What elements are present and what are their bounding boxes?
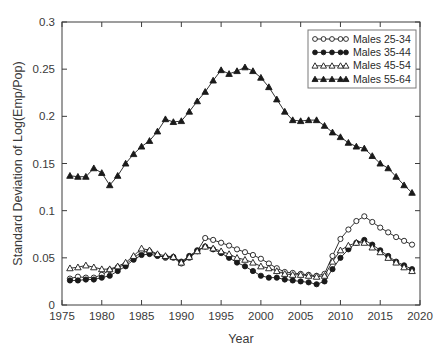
data-point-marker (242, 264, 247, 269)
data-point-marker (91, 277, 96, 282)
data-point-marker (345, 139, 352, 145)
data-point-marker (354, 218, 359, 223)
data-point-marker (298, 279, 303, 284)
data-point-marker (321, 50, 326, 55)
data-point-marker (162, 116, 169, 122)
legend-label: Males 35-44 (353, 46, 411, 58)
y-axis-title: Standard Deviation of Log(Emp/Pop) (11, 61, 25, 265)
data-point-marker (344, 37, 349, 42)
data-point-marker (226, 243, 231, 248)
data-point-marker (234, 247, 239, 252)
data-point-marker (322, 279, 327, 284)
data-point-marker (203, 235, 208, 240)
x-tick-label: 2000 (248, 310, 274, 322)
y-tick-label: 0.25 (33, 63, 55, 75)
x-tick-label: 2010 (328, 310, 354, 322)
data-point-marker (75, 278, 80, 283)
data-point-marker (330, 37, 335, 42)
data-point-marker (266, 275, 271, 280)
x-tick-label: 2015 (367, 310, 393, 322)
data-point-marker (282, 277, 287, 282)
data-point-marker (321, 37, 326, 42)
data-point-marker (337, 134, 344, 140)
data-point-marker (385, 165, 392, 171)
y-tick-label: 0.15 (33, 158, 55, 170)
data-point-marker (409, 242, 414, 247)
data-point-marker (362, 214, 367, 219)
x-tick-label: 1985 (129, 310, 155, 322)
data-point-marker (330, 50, 335, 55)
data-point-marker (83, 277, 88, 282)
series-line (70, 243, 412, 277)
data-point-marker (234, 255, 241, 261)
data-point-marker (338, 236, 343, 241)
x-tick-label: 2005 (288, 310, 314, 322)
data-point-marker (107, 273, 112, 278)
data-point-marker (218, 67, 225, 73)
data-point-marker (211, 237, 216, 242)
y-tick-label: 0.1 (39, 205, 55, 217)
data-point-marker (219, 240, 224, 245)
legend-label: Males 55-64 (353, 73, 411, 85)
data-point-marker (282, 108, 289, 114)
data-point-marker (370, 219, 375, 224)
data-point-marker (138, 143, 145, 149)
data-point-marker (344, 50, 349, 55)
data-point-marker (378, 225, 383, 230)
data-point-marker (274, 96, 281, 102)
data-point-marker (386, 230, 391, 235)
legend-label: Males 45-54 (353, 59, 411, 71)
data-point-marker (306, 280, 311, 285)
data-series-group (67, 64, 416, 287)
data-point-marker (138, 245, 145, 251)
line-chart: 1975198019851990199520002005201020152020… (0, 0, 448, 355)
data-point-marker (242, 250, 247, 255)
series-line (70, 240, 412, 284)
data-point-marker (250, 68, 256, 74)
data-point-marker (330, 267, 335, 272)
y-tick-label: 0 (49, 299, 55, 311)
data-point-marker (67, 278, 72, 283)
data-point-marker (394, 234, 399, 239)
legend-label: Males 25-34 (353, 33, 411, 45)
data-point-marker (242, 64, 249, 70)
data-point-marker (313, 37, 318, 42)
y-tick-label: 0.3 (39, 16, 55, 28)
data-point-marker (234, 68, 241, 74)
data-point-marker (338, 37, 343, 42)
chart-legend[interactable]: Males 25-34Males 35-44Males 45-54Males 5… (308, 30, 416, 88)
data-point-marker (353, 143, 360, 149)
x-tick-label: 1975 (49, 310, 75, 322)
data-point-marker (321, 123, 328, 129)
data-point-marker (202, 89, 209, 95)
x-tick-label: 1995 (208, 310, 234, 322)
chart-figure: 1975198019851990199520002005201020152020… (0, 0, 448, 355)
data-point-marker (83, 262, 90, 268)
data-point-marker (250, 268, 255, 273)
data-point-marker (346, 227, 351, 232)
data-point-marker (99, 275, 104, 280)
data-point-marker (250, 252, 255, 257)
data-point-marker (313, 50, 318, 55)
data-point-marker (401, 238, 406, 243)
y-tick-label: 0.2 (39, 110, 55, 122)
x-tick-label: 2020 (407, 310, 433, 322)
data-point-marker (274, 275, 279, 280)
x-tick-label: 1980 (89, 310, 115, 322)
x-axis-title: Year (228, 332, 253, 346)
data-point-marker (114, 173, 121, 179)
data-point-marker (338, 255, 343, 260)
data-point-marker (337, 247, 344, 253)
x-tick-label: 1990 (169, 310, 195, 322)
data-point-marker (139, 252, 144, 257)
data-point-marker (258, 273, 263, 278)
data-point-marker (258, 263, 265, 269)
data-point-marker (338, 50, 343, 55)
data-point-marker (99, 170, 106, 176)
data-point-marker (290, 278, 295, 283)
data-point-marker (314, 282, 319, 287)
data-point-marker (258, 256, 263, 261)
y-tick-label: 0.05 (33, 252, 55, 264)
data-point-marker (154, 128, 161, 134)
data-point-marker (91, 165, 98, 171)
